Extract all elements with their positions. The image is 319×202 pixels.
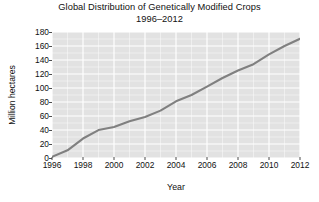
x-axis-tick-mark [83,157,84,160]
x-axis-tick-mark [52,157,53,160]
y-axis-tick-label: 80 [6,97,52,107]
x-axis-tick-label: 2010 [260,160,279,170]
y-axis-tick-label: 60 [6,111,52,121]
x-axis-tick-mark [176,157,177,160]
x-axis-tick-label: 2004 [167,160,186,170]
x-axis-tick-mark [114,157,115,160]
x-axis-tick-label: 2012 [291,160,310,170]
x-axis-tick-label: 2002 [136,160,155,170]
x-axis-tick-mark [145,157,146,160]
y-axis-tick-label: 40 [6,125,52,135]
x-axis-tick-mark [207,157,208,160]
y-axis-tick-labels: 020406080100120140160180 [0,32,52,158]
x-axis-tick-label: 1996 [43,160,62,170]
x-axis-tick-label: 2006 [198,160,217,170]
y-axis-tick-label: 100 [6,83,52,93]
x-axis-tick-label: 2000 [105,160,124,170]
x-axis-tick-mark [269,157,270,160]
plot-svg [52,32,300,158]
y-axis-tick-label: 180 [6,27,52,37]
x-axis-tick-label: 1998 [74,160,93,170]
x-axis-tick-mark [300,157,301,160]
chart-container: Global Distribution of Genetically Modif… [0,0,319,202]
y-axis-tick-label: 140 [6,55,52,65]
x-axis-tick-mark [238,157,239,160]
chart-title-line2: 1996–2012 [0,14,319,26]
x-axis-tick-label: 2008 [229,160,248,170]
x-axis-tick-labels: 199619982000200220042006200820102012 [52,160,300,174]
y-axis-tick-label: 20 [6,139,52,149]
y-axis-tick-label: 120 [6,69,52,79]
chart-title-line1: Global Distribution of Genetically Modif… [58,2,260,12]
chart-title: Global Distribution of Genetically Modif… [0,2,319,25]
plot-panel [52,32,300,158]
x-axis-title: Year [52,182,300,192]
y-axis-tick-label: 160 [6,41,52,51]
